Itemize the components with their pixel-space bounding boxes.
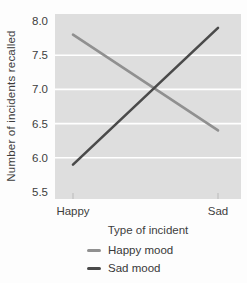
y-axis-tick-labels: 5.56.06.57.07.58.0: [0, 0, 48, 283]
y-tick-label: 8.0: [0, 15, 48, 27]
legend-swatch: [87, 267, 101, 270]
legend-item: Sad mood: [87, 259, 173, 277]
x-tick-label: Sad: [208, 205, 228, 217]
x-tick-label: Happy: [56, 205, 89, 217]
chart: Number of incidents recalled 5.56.06.57.…: [0, 0, 247, 283]
y-tick-label: 7.0: [0, 83, 48, 95]
legend-swatch: [87, 249, 101, 252]
y-tick-label: 7.5: [0, 49, 48, 61]
y-tick-label: 5.5: [0, 186, 48, 198]
x-axis-title: Type of incident: [55, 224, 241, 236]
y-tick-label: 6.0: [0, 152, 48, 164]
legend-label: Sad mood: [108, 262, 160, 274]
legend-label: Happy mood: [108, 244, 173, 256]
legend: Happy moodSad mood: [87, 241, 173, 277]
plot-area: [55, 14, 241, 199]
y-tick-label: 6.5: [0, 118, 48, 130]
plot-svg: [55, 14, 241, 199]
legend-item: Happy mood: [87, 241, 173, 259]
